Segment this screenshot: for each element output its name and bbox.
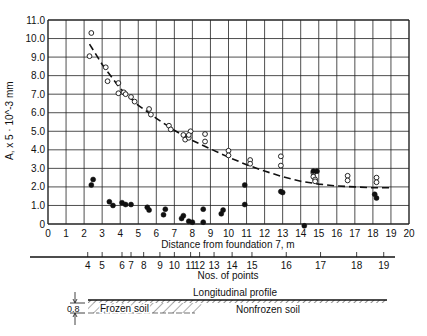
data-points	[87, 31, 379, 229]
filled-circle-point	[163, 207, 168, 212]
point-number-label: 16	[281, 260, 293, 271]
longitudinal-profile: Longitudinal profile 0.8 Frozen soil Non…	[67, 287, 387, 325]
x-tick-label: 19	[385, 228, 397, 239]
filled-circle-point	[190, 220, 195, 225]
y-tick-label: 11.0	[26, 15, 45, 26]
y-tick-label: 4.0	[31, 144, 45, 155]
point-number-label: 6	[119, 260, 125, 271]
y-tick-label: 9.0	[31, 52, 45, 63]
x-tick-label: 14	[295, 228, 307, 239]
open-circle-point	[345, 178, 350, 183]
y-axis-label: A, x 5 · 10^-3 mm	[4, 81, 15, 160]
filled-circle-point	[147, 208, 152, 213]
open-circle-point	[129, 95, 134, 100]
open-circle-point	[203, 132, 208, 137]
x-tick-label: 18	[367, 228, 379, 239]
filled-circle-point	[89, 183, 94, 188]
x-tick-label: 17	[349, 228, 361, 239]
point-number-label: 7	[128, 260, 134, 271]
x-tick-label: 16	[331, 228, 343, 239]
point-number-label: 4	[85, 260, 91, 271]
x-tick-label: 8	[190, 228, 196, 239]
point-number-label: 9	[157, 260, 163, 271]
open-circle-point	[168, 127, 173, 132]
open-circle-point	[89, 31, 94, 36]
open-circle-point	[148, 112, 153, 117]
nonfrozen-soil-label: Nonfrozen soil	[236, 304, 300, 315]
filled-circle-point	[110, 203, 115, 208]
open-circle-point	[278, 163, 283, 168]
open-circle-point	[116, 81, 121, 86]
open-circle-point	[226, 153, 231, 158]
y-tick-label: 10.0	[26, 33, 46, 44]
x-tick-label: 10	[223, 228, 235, 239]
x-tick-label: 13	[277, 228, 289, 239]
x-axis-label: Distance from foundation 7, m	[161, 239, 294, 250]
filled-circle-point	[314, 169, 319, 174]
x-tick-label: 5	[135, 228, 141, 239]
filled-circle-point	[221, 208, 226, 213]
open-circle-point	[345, 173, 350, 178]
secondary-axis-label: Nos. of points	[197, 270, 258, 281]
y-tick-label: 3.0	[31, 163, 45, 174]
point-number-label: 17	[315, 260, 327, 271]
point-number-label: 19	[378, 260, 390, 271]
open-circle-point	[123, 92, 128, 97]
filled-circle-point	[242, 183, 247, 188]
point-number-label: 18	[351, 260, 363, 271]
x-tick-label: 1	[63, 228, 69, 239]
point-number-label: 8	[141, 260, 147, 271]
open-circle-point	[186, 133, 191, 138]
x-tick-label: 2	[81, 228, 87, 239]
open-circle-point	[203, 139, 208, 144]
y-axis-ticks: 01.02.03.04.05.06.07.08.09.010.011.0	[26, 15, 46, 230]
open-circle-point	[374, 175, 379, 180]
y-tick-label: 7.0	[31, 89, 45, 100]
open-circle-point	[87, 54, 92, 59]
filled-circle-point	[129, 202, 134, 207]
x-tick-label: 11	[241, 228, 252, 239]
open-circle-point	[103, 65, 108, 70]
open-circle-point	[278, 154, 283, 159]
open-circle-point	[116, 91, 121, 96]
x-tick-label: 20	[403, 228, 415, 239]
chart: 01.02.03.04.05.06.07.08.09.010.011.0 012…	[0, 0, 427, 336]
filled-circle-point	[123, 202, 128, 207]
y-tick-label: 8.0	[31, 70, 45, 81]
filled-circle-point	[161, 212, 166, 217]
depth-label: 0.8	[67, 304, 80, 314]
x-tick-label: 12	[259, 228, 271, 239]
y-tick-label: 5.0	[31, 126, 45, 137]
x-tick-label: 0	[45, 228, 51, 239]
x-tick-label: 3	[99, 228, 105, 239]
x-tick-label: 6	[154, 228, 160, 239]
grid	[48, 20, 409, 224]
open-circle-point	[181, 133, 186, 138]
filled-circle-point	[374, 196, 379, 201]
point-number-label: 10	[169, 260, 181, 271]
open-circle-point	[105, 79, 110, 84]
x-tick-label: 7	[172, 228, 178, 239]
y-tick-label: 6.0	[31, 107, 45, 118]
points-number-axis: 45678910111213141516171819	[30, 252, 395, 271]
filled-circle-point	[201, 207, 206, 212]
y-tick-label: 2.0	[31, 181, 45, 192]
filled-circle-point	[302, 223, 307, 228]
open-circle-point	[313, 179, 318, 184]
open-circle-point	[226, 148, 231, 153]
filled-circle-point	[201, 220, 206, 225]
filled-circle-point	[181, 213, 186, 218]
profile-title: Longitudinal profile	[193, 287, 277, 298]
open-circle-point	[248, 161, 253, 166]
open-circle-point	[147, 107, 152, 112]
filled-circle-point	[280, 190, 285, 195]
open-circle-point	[132, 99, 137, 104]
open-circle-point	[374, 180, 379, 185]
y-tick-label: 1.0	[31, 200, 45, 211]
point-number-label: 5	[99, 260, 105, 271]
x-axis-ticks: 01234567891011121314151617181920	[45, 228, 415, 239]
filled-circle-point	[91, 177, 96, 182]
x-tick-label: 15	[313, 228, 325, 239]
fitted-curve	[90, 44, 391, 188]
frozen-soil-label: Frozen soil	[100, 303, 149, 314]
